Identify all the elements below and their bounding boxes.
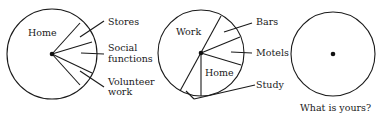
pie-chart-3: What is yours? (291, 12, 375, 113)
pie-diagrams: Home Stores Social functions Volunteer w… (0, 0, 387, 117)
callout-work: work (108, 86, 132, 97)
caption-what-is-yours: What is yours? (300, 102, 371, 113)
label-home: Home (28, 27, 57, 38)
callout-motels: Motels (256, 47, 289, 58)
callout-study: Study (256, 79, 285, 90)
callout-functions: functions (108, 53, 153, 64)
pie-chart-2: Work Home Bars Motels Study (158, 10, 289, 99)
label-home: Home (205, 67, 234, 78)
callout-stores: Stores (108, 16, 139, 27)
pie-chart-1: Home Stores Social functions Volunteer w… (7, 9, 155, 99)
callout-bars: Bars (256, 16, 278, 27)
label-work: Work (176, 26, 201, 37)
callout-social: Social (108, 42, 137, 53)
